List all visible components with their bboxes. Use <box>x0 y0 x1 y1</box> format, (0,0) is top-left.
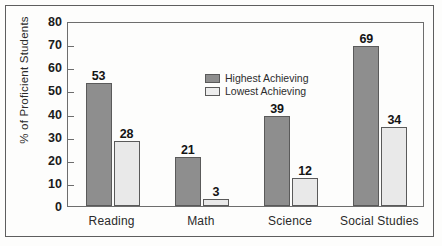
chart-screenshot: 01020304050607080 % of Proficient Studen… <box>0 0 442 246</box>
legend-item-label: Highest Achieving <box>225 73 308 84</box>
light-gray-swatch <box>205 87 220 96</box>
y-axis-tick-mark <box>68 139 74 140</box>
y-axis-tick-label: 10 <box>36 178 62 191</box>
bar <box>86 83 112 206</box>
y-axis-tick-mark <box>68 185 74 186</box>
bar-value-label: 28 <box>120 128 134 141</box>
dark-gray-swatch <box>205 74 220 83</box>
bar <box>264 116 290 206</box>
chart-legend: Highest AchievingLowest Achieving <box>205 73 308 99</box>
y-axis-tick-label: 40 <box>36 108 62 121</box>
y-axis-tick-label: 30 <box>36 131 62 144</box>
bar-value-label: 21 <box>181 144 195 157</box>
y-axis-tick-mark <box>68 116 74 117</box>
legend-item: Lowest Achieving <box>205 86 308 97</box>
bar <box>203 199 229 206</box>
bar-value-label: 34 <box>387 114 401 127</box>
bar <box>353 46 379 206</box>
y-axis-tick-mark <box>68 46 74 47</box>
plot-area: 532821339126934 Highest AchievingLowest … <box>67 22 424 207</box>
x-axis-category-label: Math <box>187 214 214 228</box>
bar-value-label: 12 <box>298 165 312 178</box>
y-axis-tick-mark <box>68 92 74 93</box>
y-axis-tick-mark <box>68 162 74 163</box>
x-axis-category-label: Science <box>268 214 312 228</box>
bar <box>381 127 407 206</box>
y-axis-tick-label: 60 <box>36 62 62 75</box>
y-axis-tick-mark <box>68 69 74 70</box>
y-axis-title: % of Proficient Students <box>18 10 30 150</box>
y-axis-tick-label: 80 <box>36 16 62 29</box>
y-axis-tick-label: 0 <box>36 201 62 214</box>
bar <box>175 157 201 206</box>
bar-value-label: 69 <box>359 33 373 46</box>
bar-value-label: 39 <box>270 103 284 116</box>
y-axis-tick-labels: 01020304050607080 <box>33 22 62 207</box>
y-axis-tick-label: 20 <box>36 155 62 168</box>
legend-item: Highest Achieving <box>205 73 308 84</box>
x-axis-category-label: Reading <box>89 214 135 228</box>
bar-value-label: 3 <box>212 186 219 199</box>
y-axis-tick-label: 50 <box>36 85 62 98</box>
x-axis-category-label: Social Studies <box>340 214 419 228</box>
bar <box>114 141 140 206</box>
bar <box>292 178 318 206</box>
legend-item-label: Lowest Achieving <box>225 86 306 97</box>
y-axis-tick-label: 70 <box>36 39 62 52</box>
bar-value-label: 53 <box>92 70 106 83</box>
